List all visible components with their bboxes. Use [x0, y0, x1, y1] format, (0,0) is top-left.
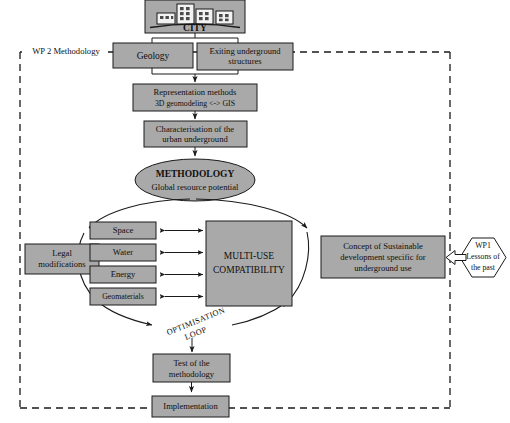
- geology-label: Geology: [137, 51, 170, 61]
- test-label-line1: Test of the: [173, 358, 209, 368]
- resource-geomaterials-label: Geomaterials: [102, 292, 144, 301]
- resource-water-label: Water: [113, 247, 133, 257]
- geology-node: Geology: [113, 43, 193, 68]
- multi-use-label-line2: COMPATIBILITY: [213, 265, 285, 275]
- wp1-label-line3: the past: [471, 263, 496, 272]
- resource-energy-label: Energy: [111, 269, 136, 279]
- city-to-inputs-connector: [152, 33, 238, 44]
- methodology-flowchart: WP 2 Methodology: [0, 0, 510, 423]
- city-label: CITY: [183, 23, 207, 33]
- test-methodology-node: Test of the methodology: [153, 354, 230, 382]
- resource-space-label: Space: [113, 225, 134, 235]
- wp1-lessons-node: WP1 Lessons of the past: [460, 238, 506, 277]
- existing-structures-node: Exiting underground structures: [197, 43, 293, 70]
- concept-label-line1: Concept of Sustainable: [343, 241, 423, 251]
- resource-energy-node: Energy: [90, 266, 156, 283]
- legal-label-line1: Legal: [52, 248, 72, 258]
- implementation-node: Implementation: [152, 396, 229, 417]
- resource-water-node: Water: [90, 244, 156, 261]
- test-label-line2: methodology: [169, 369, 215, 379]
- characterisation-label-line2: urban underground: [162, 134, 228, 144]
- characterisation-label-line1: Characterisation of the: [156, 124, 234, 134]
- representation-methods-node: Representation methods 3D geomodeling <-…: [133, 84, 257, 111]
- concept-label-line2: development specific for: [340, 252, 426, 262]
- resource-compatibility-arrows: [165, 231, 203, 297]
- city-node: CITY: [145, 0, 245, 33]
- wp1-label-line1: WP1: [475, 241, 491, 250]
- representation-label-line2: 3D geomodeling <-> GIS: [155, 99, 235, 108]
- methodology-label-line2: Global resource potential: [152, 182, 239, 192]
- multi-use-compatibility-node: MULTI-USE COMPATIBILITY: [206, 221, 292, 306]
- concept-label-line3: underground use: [354, 263, 412, 273]
- resource-space-node: Space: [90, 222, 156, 239]
- legal-label-line2: modifications: [38, 259, 86, 269]
- existing-structures-label-line2: structures: [228, 56, 262, 66]
- resource-geomaterials-node: Geomaterials: [90, 288, 156, 305]
- legal-modifications-node: Legal modifications: [25, 244, 99, 274]
- wp1-label-line2: Lessons of: [466, 252, 500, 261]
- representation-label-line1: Representation methods: [154, 87, 237, 97]
- existing-structures-label-line1: Exiting underground: [209, 46, 281, 56]
- methodology-label-line1: METHODOLOGY: [156, 169, 235, 179]
- wp2-boundary-label: WP 2 Methodology: [32, 46, 100, 56]
- sustainable-concept-node: Concept of Sustainable development speci…: [321, 236, 445, 278]
- methodology-node: METHODOLOGY Global resource potential: [135, 159, 255, 201]
- implementation-label: Implementation: [163, 401, 218, 411]
- multi-use-label-line1: MULTI-USE: [224, 251, 275, 261]
- characterisation-node: Characterisation of the urban undergroun…: [144, 121, 247, 147]
